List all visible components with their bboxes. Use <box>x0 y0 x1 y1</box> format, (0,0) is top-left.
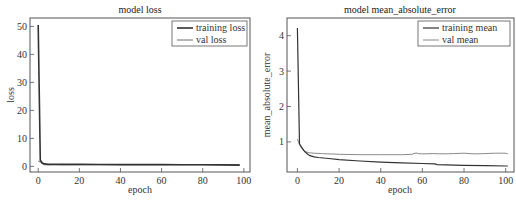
y-tick-label: 20 <box>17 105 27 116</box>
legend: training loss val loss <box>172 21 247 46</box>
data-lines <box>297 28 507 166</box>
legend-label-training-loss: training loss <box>196 22 245 33</box>
y-tick-label: 10 <box>17 133 27 144</box>
x-tick-label: 40 <box>115 175 125 186</box>
legend-label-val-loss: val loss <box>196 34 226 45</box>
y-tick-label: 0 <box>22 161 27 172</box>
legend-label-val-mean: val mean <box>442 34 478 45</box>
series-line-val-mean <box>297 139 507 155</box>
legend-label-training-mean: training mean <box>442 22 497 33</box>
y-axis-label: loss <box>5 87 16 103</box>
chart-canvas: model loss 01020304050 020406080100 epoc… <box>0 0 516 201</box>
x-tick-label: 40 <box>376 175 386 186</box>
y-tick-label: 30 <box>17 77 27 88</box>
y-tick-label: 40 <box>17 49 27 60</box>
x-tick-label: 0 <box>36 175 41 186</box>
x-tick-label: 60 <box>417 175 427 186</box>
x-axis-label: epoch <box>388 184 412 195</box>
x-tick-label: 20 <box>74 175 84 186</box>
y-tick-label: 2 <box>279 101 284 112</box>
y-axis-ticks: 01020304050 <box>17 21 34 172</box>
chart-title: model mean_absolute_error <box>344 4 457 15</box>
y-tick-label: 50 <box>17 21 27 32</box>
x-axis-label: epoch <box>128 184 152 195</box>
x-tick-label: 80 <box>198 175 208 186</box>
loss-chart: model loss 01020304050 020406080100 epoc… <box>5 4 251 195</box>
y-tick-label: 1 <box>279 136 284 147</box>
mae-chart: model mean_absolute_error 1234 020406080… <box>261 4 514 195</box>
x-tick-label: 80 <box>459 175 469 186</box>
x-tick-label: 0 <box>295 175 300 186</box>
series-line-training-mean <box>297 28 507 166</box>
x-tick-label: 60 <box>157 175 167 186</box>
y-axis-ticks: 1234 <box>279 30 291 147</box>
y-tick-label: 4 <box>279 30 284 41</box>
x-tick-label: 100 <box>498 175 513 186</box>
y-tick-label: 3 <box>279 66 284 77</box>
legend: training mean val mean <box>418 21 510 46</box>
chart-title: model loss <box>118 4 161 15</box>
x-tick-label: 100 <box>236 175 251 186</box>
y-axis-label: mean_absolute_error <box>261 52 272 137</box>
x-tick-label: 20 <box>334 175 344 186</box>
